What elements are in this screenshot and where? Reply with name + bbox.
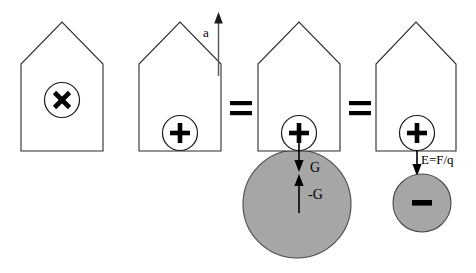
gravity-down-label: G: [310, 160, 320, 175]
equals-sign-second-bar-bottom: [349, 111, 371, 115]
diagram-canvas: a G -G: [0, 0, 476, 273]
panel-house-rest-frame: [21, 22, 103, 151]
equals-sign-second-bar-top: [349, 101, 371, 105]
charge-marker-plus-4: [400, 116, 435, 151]
equals-sign-first-bar-bottom: [230, 111, 252, 115]
charge-marker-plus-2: [163, 116, 198, 151]
gravity-up-label: -G: [308, 187, 323, 202]
minus-icon: [412, 200, 432, 206]
panel-house-electric-field: E=F/q: [376, 22, 456, 232]
equals-sign-first-bar-top: [230, 101, 252, 105]
equals-sign-first: [230, 101, 252, 115]
acceleration-label: a: [203, 25, 209, 40]
electric-field-label: E=F/q: [421, 152, 454, 167]
acceleration-arrow-head: [214, 12, 223, 24]
panel-house-accelerating: a: [139, 12, 223, 151]
equivalence-principle-diagram: a G -G: [0, 0, 476, 273]
charge-marker-cross: [45, 83, 80, 118]
panel-house-gravitational-field: G -G: [243, 22, 351, 258]
equals-sign-second: [349, 101, 371, 115]
